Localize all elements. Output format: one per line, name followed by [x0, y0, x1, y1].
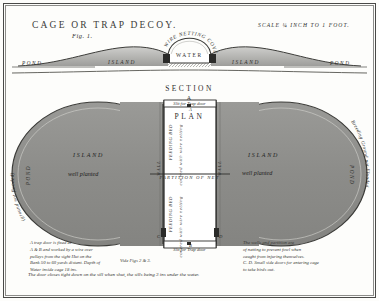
caption-left-line: A & B and worked by a wire over — [30, 247, 100, 254]
caption-right-line: to take birds out. — [243, 267, 319, 274]
plan-island-left-label: ISLAND — [73, 152, 104, 158]
section-island-left-label: ISLAND — [108, 59, 136, 65]
plan-island-right-label: ISLAND — [248, 152, 279, 158]
caption-right-line: of netting to prevent fowl when — [243, 247, 319, 254]
plan-covered-bottom-label: covered with wire netting — [178, 196, 183, 257]
plan-callout-c: C — [157, 234, 160, 239]
plan-callout-a: A — [189, 107, 192, 112]
plan-partition-label: PARTITION OF NET — [0, 175, 379, 180]
plan-feeding-bed-bottom-label: FEEDING BED — [168, 196, 173, 232]
section-pond-left-label: POND — [22, 60, 43, 66]
section-pond-right-label: POND — [330, 60, 351, 66]
section-island-right-label: ISLAND — [232, 59, 260, 65]
plan-slit-top-label: Slit for Trap door — [0, 101, 379, 106]
plan-feeding-bed-top-label: FEEDING BED — [168, 124, 173, 160]
caption-left-line: pulleys from the sight Hut on the — [30, 254, 100, 261]
section-heading: SECTION — [0, 84, 379, 93]
plan-callout-d: D — [219, 234, 222, 239]
section-water-label: WATER — [0, 52, 379, 58]
caption-right: The walls and partition are of netting t… — [243, 240, 319, 274]
caption-left-line: Bank 50 to 60 yards distant. Depth of — [30, 260, 100, 267]
plan-callout-b: B — [189, 243, 192, 248]
plan-heading: PLAN — [0, 112, 379, 121]
caption-right-line: C. D. Small side doors for entering cage — [243, 260, 319, 267]
engraved-plate: CAGE OR TRAP DECOY. Fig. 1. SCALE ¼ INCH… — [0, 0, 379, 301]
plan-wall-left-label: WALL — [156, 160, 161, 176]
caption-right-line: caught from injuring themselves. — [243, 254, 319, 261]
caption-right-line: The walls and partition are — [243, 240, 319, 247]
caption-left: A trap door is fixed at A & B and worked… — [30, 240, 100, 274]
caption-left-line: A trap door is fixed at — [30, 240, 100, 247]
caption-bottom: The door closes tight down on the sill w… — [28, 272, 199, 277]
plan-wall-right-label: WALL — [217, 160, 222, 176]
caption-vide-figs: Vide Figs 2 & 3. — [120, 258, 151, 263]
